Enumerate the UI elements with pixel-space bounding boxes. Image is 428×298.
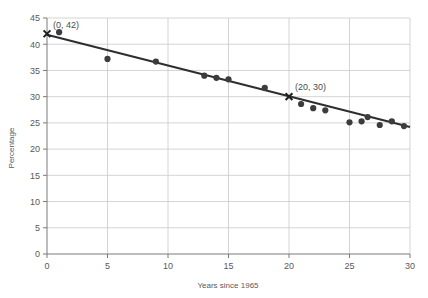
data-point bbox=[346, 119, 352, 125]
data-point bbox=[322, 107, 328, 113]
data-point bbox=[262, 85, 268, 91]
data-point bbox=[213, 75, 219, 81]
y-tick-label: 35 bbox=[30, 66, 40, 76]
y-tick-label: 0 bbox=[35, 249, 40, 259]
data-point bbox=[201, 73, 207, 79]
x-tick-label: 10 bbox=[163, 261, 173, 271]
chart-canvas: 051015202530354045 051015202530 (0, 42)(… bbox=[0, 0, 428, 298]
data-point bbox=[298, 101, 304, 107]
y-axis-title: Percentage bbox=[7, 127, 16, 168]
data-point bbox=[56, 29, 62, 35]
x-tick-label: 15 bbox=[223, 261, 233, 271]
data-point bbox=[401, 123, 407, 129]
data-point bbox=[389, 118, 395, 124]
x-tick-label: 0 bbox=[44, 261, 49, 271]
data-point bbox=[153, 58, 159, 64]
x-tick-label: 30 bbox=[405, 261, 415, 271]
x-tick-label: 5 bbox=[105, 261, 110, 271]
y-tick-label: 20 bbox=[30, 144, 40, 154]
y-tick-label: 25 bbox=[30, 118, 40, 128]
x-tick-label: 20 bbox=[284, 261, 294, 271]
data-point bbox=[104, 56, 110, 62]
x-tick-label: 25 bbox=[344, 261, 354, 271]
data-point bbox=[225, 76, 231, 82]
y-tick-label: 10 bbox=[30, 197, 40, 207]
data-point bbox=[359, 118, 365, 124]
y-tick-label: 5 bbox=[35, 223, 40, 233]
y-tick-label: 40 bbox=[30, 40, 40, 50]
y-tick-label: 30 bbox=[30, 92, 40, 102]
data-point bbox=[377, 122, 383, 128]
data-point bbox=[365, 114, 371, 120]
y-tick-label: 15 bbox=[30, 171, 40, 181]
annotation-label: (20, 30) bbox=[295, 82, 326, 92]
scatter-plot-figure: 051015202530354045 051015202530 (0, 42)(… bbox=[0, 0, 428, 298]
x-axis-title: Years since 1965 bbox=[197, 281, 259, 290]
y-tick-label: 45 bbox=[30, 13, 40, 23]
data-point bbox=[310, 105, 316, 111]
annotation-label: (0, 42) bbox=[53, 20, 79, 30]
